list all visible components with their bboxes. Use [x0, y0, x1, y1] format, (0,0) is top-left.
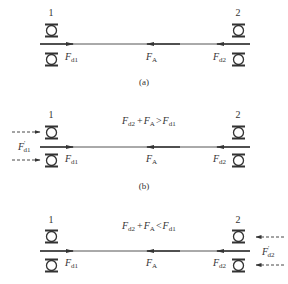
roller-2-bottom-icon	[232, 260, 245, 272]
roller-2-top-icon	[232, 127, 245, 139]
force-fa-label: FA	[145, 257, 157, 270]
roller-2-top-icon	[232, 231, 245, 243]
roller-1-label: 1	[49, 214, 54, 225]
roller-1-bottom-icon	[45, 54, 58, 66]
external-force-label: F'd1	[17, 139, 31, 154]
force-fd2-label: Fd2	[212, 51, 227, 64]
roller-force-diagram: 1 2 Fd1 FA Fd2 (a) 1	[0, 0, 288, 284]
roller-2-label: 2	[236, 214, 241, 225]
roller-2-label: 2	[236, 109, 241, 120]
roller-2-bottom-icon	[232, 155, 245, 167]
force-fa-label: FA	[145, 153, 157, 166]
roller-2-label: 2	[236, 7, 241, 18]
force-fa-label: FA	[145, 51, 157, 64]
force-fd2-label: Fd2	[212, 153, 227, 166]
force-fd1-label: Fd1	[64, 51, 79, 64]
caption-b: (b)	[139, 181, 150, 191]
panel-b: 1 2 Fd2+FA>Fd1 F'd1 Fd1 FA	[12, 109, 250, 191]
roller-1-bottom-icon	[45, 155, 58, 167]
caption-a: (a)	[139, 77, 149, 87]
external-force-label: F'd2	[261, 244, 275, 259]
force-fd2-label: Fd2	[212, 257, 227, 270]
force-fd1-label: Fd1	[64, 153, 79, 166]
roller-1-bottom-icon	[45, 260, 58, 272]
roller-1-top-icon	[45, 231, 58, 243]
roller-2-bottom-icon	[232, 54, 245, 66]
roller-2-top-icon	[232, 25, 245, 37]
roller-1-top-icon	[45, 127, 58, 139]
force-fd1-label: Fd1	[64, 257, 79, 270]
panel-c: 1 2 Fd2+FA<Fd1 F'd2 Fd1 FA	[40, 214, 284, 272]
roller-1-label: 1	[49, 7, 54, 18]
condition-formula: Fd2+FA<Fd1	[121, 220, 176, 233]
roller-1-label: 1	[49, 109, 54, 120]
roller-1-top-icon	[45, 25, 58, 37]
condition-formula: Fd2+FA>Fd1	[121, 115, 176, 128]
panel-a: 1 2 Fd1 FA Fd2 (a)	[40, 7, 250, 87]
